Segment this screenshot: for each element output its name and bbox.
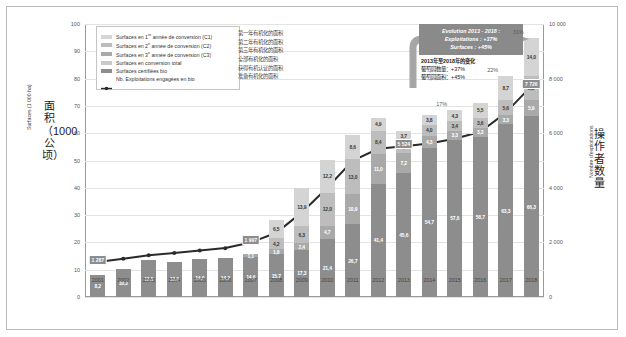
y2-axis-title-cn: 操作者数量: [592, 128, 606, 190]
y-axis-tick-label: 70: [56, 103, 80, 109]
bar-segment-c1: 3,8: [422, 115, 437, 125]
y-axis-title-cn: 面积（1000公顷）: [42, 100, 56, 162]
bar-value-label: 57,6: [447, 215, 462, 221]
bar-value-label: 58,7: [473, 214, 488, 220]
legend: Surfaces en 1re année de conversion (C1)…: [96, 26, 240, 90]
y-axis-tick-label: 0: [56, 294, 80, 300]
y-axis-tick-label: 50: [56, 158, 80, 164]
legend-item[interactable]: Surfaces en 2e année de conversion (C2): [101, 42, 235, 49]
bar-segment-c3: 1,1: [243, 254, 258, 257]
y-axis-tick-label: 90: [56, 48, 80, 54]
bar-value-label: 17,3: [294, 270, 309, 276]
bar-segment-c3: 4,3: [422, 136, 437, 148]
bar-value-label: 11,0: [371, 166, 386, 172]
bar-value-label: 1,1: [243, 253, 258, 259]
bar-segment-cert: 21,4: [320, 239, 335, 297]
bar-segment-c3: 2,4: [294, 243, 309, 250]
legend-item-label: Surfaces en 1re année de conversion (C1): [116, 33, 212, 40]
bar-value-label: 4,3: [447, 113, 462, 119]
legend-item-label-cn: 第三年有机化的面积: [238, 48, 330, 53]
legend-item[interactable]: Surfaces certifiées bio: [101, 68, 235, 74]
bar-value-label: 3,6: [473, 120, 488, 126]
line-series-point: [121, 257, 125, 261]
legend-item[interactable]: Surfaces en conversion total: [101, 60, 235, 66]
bar-value-label: 26,7: [345, 258, 360, 264]
bar-value-label: 8,6: [345, 144, 360, 150]
bar-segment-c1: 4,3: [447, 110, 462, 122]
line-series-point: [223, 246, 227, 250]
bar-segment-c3: 7,2: [396, 153, 411, 173]
bar-value-label: 63,3: [498, 208, 513, 214]
line-point-value-label: 5 524: [394, 139, 413, 149]
bar-value-label: 5,9: [524, 105, 539, 111]
bar-value-label: 6,5: [269, 226, 284, 232]
legend-item[interactable]: Nb. Exploitations engagées en bio: [101, 76, 235, 82]
bar-segment-c3: 4,7: [320, 226, 335, 239]
bar-segment-c1: 13,9: [294, 188, 309, 226]
line-series-point: [147, 253, 151, 257]
bar-segment-c3: 3,3: [447, 131, 462, 140]
bar-value-label: 21,4: [320, 265, 335, 271]
bar-value-label: 4,9: [371, 121, 386, 127]
y2-axis-title-fr: Nombre d'exploitations: [588, 125, 594, 178]
bar-value-label: 54,7: [422, 219, 437, 225]
legend-item[interactable]: Surfaces en 1re année de conversion (C1): [101, 33, 235, 40]
swatch-icon: [101, 35, 112, 39]
legend-item-label-cn: 获得有机认证的面积: [238, 66, 330, 71]
bar-value-label: 4,2: [269, 241, 284, 247]
bar-value-label: 45,6: [396, 232, 411, 238]
percent-annotation: 17%: [436, 101, 447, 107]
bar-value-label: 6,3: [294, 232, 309, 238]
bar-segment-cert: 57,6: [447, 140, 462, 297]
bar-segment-c3: 5,9: [524, 100, 539, 116]
bar-segment-cert: 15,7: [269, 254, 284, 297]
line-point-value-label: 1 997: [241, 235, 260, 245]
bar-segment-c2: 8,4: [371, 131, 386, 154]
percent-annotation: 22%: [487, 67, 498, 73]
y-axis-tick-label: 20: [56, 239, 80, 245]
line-series-point: [172, 251, 176, 255]
bar-segment-cert: 54,7: [422, 148, 437, 297]
bar-segment-c2: 6,3: [294, 226, 309, 243]
bar-value-label: 3,8: [422, 117, 437, 123]
y-axis-tick-label: 80: [56, 76, 80, 82]
legend-item-label: Surfaces certifiées bio: [116, 68, 167, 74]
y-axis-title-fr: Surfaces (1 000 ha): [26, 84, 32, 130]
legend-item-label: Surfaces en conversion total: [116, 60, 181, 66]
bar-value-label: 5,5: [473, 107, 488, 113]
line-point-value-label: 7 726: [522, 79, 541, 89]
y2-axis-tick-label: 2 000: [549, 239, 579, 245]
callout-line-2: Exploitations : +37%: [424, 36, 518, 44]
bar-segment-c3: 3,3: [498, 115, 513, 124]
bar-value-label: 5,6: [498, 105, 513, 111]
bar-value-label: 3,7: [396, 133, 411, 139]
legend-item[interactable]: Surfaces en 3e année de conversion (C3): [101, 51, 235, 58]
legend-chinese: 第一年有机化的面积第二年有机化的面积第三年有机化的面积全部有机化的面积获得有机认…: [238, 28, 330, 83]
callout-line-3: Surfaces : +45%: [424, 44, 518, 52]
bar-value-label: 66,3: [524, 204, 539, 210]
callout-cn-line-1: 葡萄园数量：+37%: [421, 65, 531, 73]
bar-value-label: 8,4: [371, 139, 386, 145]
callout-line-1: Evolution 2013 - 2018 :: [424, 28, 518, 36]
bar-segment-cert: 10,2: [116, 269, 131, 297]
bar-segment-c2: 5,6: [498, 100, 513, 115]
evolution-callout-cn: 2013年至2018年的变化 葡萄园数量：+37% 葡萄园面积：+45%: [421, 57, 531, 81]
line-series-path: [98, 86, 532, 262]
bar-segment-c2: 4,2: [269, 238, 284, 249]
bar-value-label: 12,2: [320, 173, 335, 179]
bar-segment-c3: 3,3: [473, 128, 488, 137]
bar-value-label: 2,4: [294, 244, 309, 250]
y-axis-tick-label: 40: [56, 185, 80, 191]
bar-value-label: 4,3: [422, 139, 437, 145]
swatch-icon: [101, 43, 112, 47]
bar-value-label: 1,8: [269, 249, 284, 255]
y-axis-tick-label: 60: [56, 130, 80, 136]
bar-value-label: 3,4: [447, 123, 462, 129]
y2-axis-tick-label: 0: [549, 294, 579, 300]
legend-item-label-cn: 全部有机化的面积: [238, 57, 330, 62]
x-axis-tick-label: 2018: [516, 277, 546, 283]
legend-item-label: Surfaces en 2e année de conversion (C2): [116, 42, 211, 49]
chart-page: 面积（1000公顷） Surfaces (1 000 ha) 操作者数量 Nom…: [0, 0, 626, 337]
y2-axis-tick-label: 6 000: [549, 130, 579, 136]
bar-segment-cert: 26,7: [345, 224, 360, 297]
